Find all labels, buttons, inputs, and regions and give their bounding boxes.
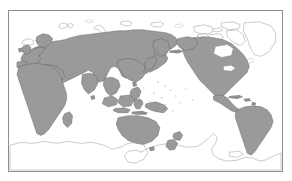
- region-india: [81, 73, 98, 94]
- region-antarctica-inner-bay: [229, 151, 243, 157]
- region-arctic-canada-islets: [213, 28, 223, 32]
- region-greenland: [243, 22, 276, 57]
- region-caribbean-cuba: [228, 95, 243, 99]
- region-hokkaido: [153, 51, 160, 57]
- region-arctic-canada-ellesmere: [221, 22, 240, 30]
- region-wrangel-island: [175, 24, 184, 28]
- world-map-figure: [0, 0, 292, 181]
- region-indochina: [103, 77, 120, 96]
- region-new-guinea: [145, 102, 168, 113]
- region-south-america: [235, 106, 273, 155]
- region-caribbean-antilles: [251, 102, 256, 106]
- region-svalbard-east: [68, 24, 74, 28]
- region-severnaya-zemlya: [120, 21, 132, 26]
- region-africa: [17, 63, 67, 135]
- region-alaska-aleutians: [169, 50, 184, 54]
- region-new-zealand-north: [173, 131, 183, 140]
- region-madagascar: [63, 112, 73, 128]
- region-sri-lanka: [90, 95, 95, 100]
- region-australia: [116, 116, 160, 145]
- region-borneo: [118, 95, 134, 107]
- region-arctic-canada-west: [194, 25, 214, 34]
- region-java: [113, 108, 130, 113]
- region-lesser-sunda: [131, 111, 148, 115]
- map-frame: [8, 10, 283, 172]
- region-franz-josef-land: [85, 20, 93, 23]
- region-sumatra: [102, 96, 118, 107]
- region-new-siberian-islands: [151, 22, 164, 27]
- world-map-graphic: [9, 11, 282, 171]
- region-group-shaded: [17, 30, 273, 155]
- region-svalbard: [59, 23, 68, 29]
- region-caribbean-hispaniola: [243, 98, 251, 102]
